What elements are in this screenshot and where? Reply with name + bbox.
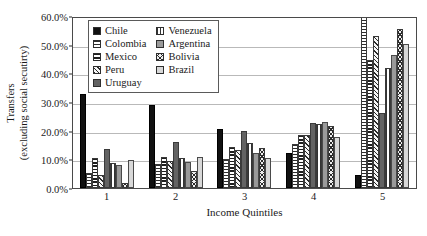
y-axis-tick-label: 30.0% [41,98,68,109]
legend-swatch [93,53,101,61]
y-axis-tick-label: 0.0% [46,184,68,195]
legend-column-left: ChileColombiaMexicoPeruUruguay [93,24,146,89]
y-axis-tick-label: 60.0% [41,12,68,23]
legend-label: Chile [105,25,128,36]
legend-label: Colombia [105,38,146,49]
x-axis-tick-label: 1 [72,191,141,207]
x-axis-tick-label: 5 [348,191,417,207]
bar [403,44,409,188]
legend-label: Venezuela [168,25,211,36]
legend-item: Uruguay [93,76,146,89]
x-axis-title: Income Quintiles [72,206,417,218]
legend-label: Peru [105,64,124,75]
bar-group [347,18,416,188]
legend-item: Bolivia [156,50,211,63]
legend-label: Bolivia [168,51,199,62]
y-axis-title-line-1: Transfers [5,46,18,160]
legend-swatch [93,27,101,35]
legend-label: Argentina [168,38,210,49]
legend-column-right: VenezuelaArgentinaBoliviaBrazil [156,24,211,89]
chart-figure: Transfers (excluding social secutirty) 0… [0,0,427,236]
legend-swatch [156,66,164,74]
bar-group [210,18,279,188]
legend-label: Brazil [168,64,194,75]
x-axis-tick-label: 2 [141,191,210,207]
legend: ChileColombiaMexicoPeruUruguay Venezuela… [88,20,219,93]
legend-swatch [156,27,164,35]
legend-swatch [93,79,101,87]
bar [265,158,271,188]
bar [128,160,134,188]
x-axis-tick-label: 4 [279,191,348,207]
legend-item: Brazil [156,63,211,76]
x-axis-tick-label: 3 [210,191,279,207]
legend-swatch [93,40,101,48]
y-axis-tick-label: 10.0% [41,155,68,166]
legend-label: Uruguay [105,77,142,88]
legend-item: Chile [93,24,146,37]
x-axis-ticks: 12345 [72,191,417,207]
legend-item: Mexico [93,50,146,63]
legend-item: Venezuela [156,24,211,37]
legend-item: Colombia [93,37,146,50]
bar-group [279,18,348,188]
y-axis-tick-label: 40.0% [41,69,68,80]
legend-swatch [156,53,164,61]
legend-label: Mexico [105,51,137,62]
legend-item: Peru [93,63,146,76]
legend-item: Argentina [156,37,211,50]
y-axis-tick-label: 20.0% [41,126,68,137]
bar [197,157,203,188]
legend-swatch [156,40,164,48]
y-axis-tick-label: 50.0% [41,40,68,51]
bar [334,137,340,188]
legend-swatch [93,66,101,74]
y-axis-ticks: 0.0%10.0%20.0%30.0%40.0%50.0%60.0% [28,14,72,192]
